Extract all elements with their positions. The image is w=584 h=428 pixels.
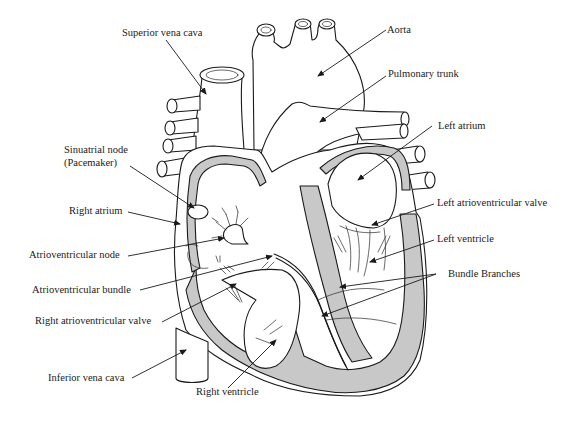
label-pulmonary-trunk: Pulmonary trunk	[388, 68, 459, 81]
label-right-atrioventricular-valve: Right atrioventricular valve	[35, 315, 151, 328]
label-sinuatrial-node: Sinuatrial node (Pacemaker)	[64, 144, 128, 169]
label-inferior-vena-cava: Inferior vena cava	[48, 372, 124, 385]
label-bundle-branches: Bundle Branches	[448, 268, 520, 281]
leader-superior-vena-cava	[166, 40, 206, 94]
label-sinuatrial-node-line1: Sinuatrial node	[64, 144, 128, 157]
label-left-ventricle: Left ventricle	[437, 233, 494, 246]
label-superior-vena-cava: Superior vena cava	[122, 27, 202, 40]
aorta-branch-mid	[295, 19, 311, 29]
label-left-atrioventricular-valve: Left atrioventricular valve	[437, 197, 547, 210]
label-right-atrium: Right atrium	[69, 205, 122, 218]
label-atrioventricular-bundle: Atrioventricular bundle	[32, 284, 131, 297]
label-aorta: Aorta	[387, 24, 411, 37]
aorta-branch-left	[257, 24, 275, 36]
label-atrioventricular-node: Atrioventricular node	[29, 249, 120, 262]
heart-diagram: Superior vena cava Aorta Pulmonary trunk…	[0, 0, 584, 428]
label-left-atrium: Left atrium	[438, 120, 486, 133]
sinuatrial-node	[188, 205, 208, 219]
label-right-ventricle: Right ventricle	[196, 386, 259, 399]
leader-right-atrium	[128, 212, 180, 224]
aorta-branch-right	[319, 19, 335, 29]
label-sinuatrial-node-line2: (Pacemaker)	[64, 157, 128, 170]
